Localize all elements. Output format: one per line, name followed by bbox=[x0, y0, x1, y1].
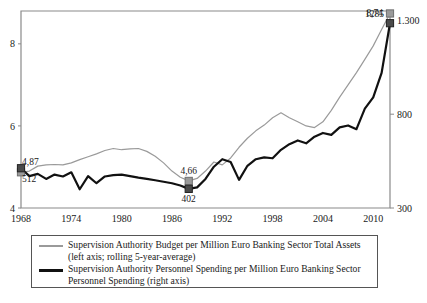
legend-entry-budget-text: Supervision Authority Budget per Million… bbox=[68, 239, 361, 262]
annotation-value-label: 1285 bbox=[365, 9, 384, 19]
x-axis-tick-label: 2004 bbox=[313, 213, 333, 224]
annotation-marker-dark bbox=[185, 185, 192, 192]
annotation-marker-dark bbox=[386, 20, 393, 27]
chart-legend: Supervision Authority Budget per Million… bbox=[31, 235, 378, 288]
series-line-budget bbox=[21, 13, 390, 180]
annotation-value-label: 402 bbox=[182, 194, 197, 204]
series-line-personnel bbox=[21, 23, 390, 189]
gray-line-swatch bbox=[39, 245, 63, 247]
annotation-marker-gray bbox=[185, 177, 192, 184]
legend-personnel-line2: Personnel Spending (right axis) bbox=[68, 275, 189, 286]
x-axis-tick-label: 1992 bbox=[212, 213, 232, 224]
x-axis-tick-label: 1998 bbox=[263, 213, 283, 224]
right-axis-tick-label: 1.300 bbox=[397, 15, 420, 26]
x-axis-tick-label: 1974 bbox=[61, 213, 81, 224]
legend-budget-line2: (left axis; rolling 5-year-average) bbox=[68, 251, 195, 262]
legend-personnel-line1: Supervision Authority Personnel Spending… bbox=[68, 263, 361, 274]
x-axis-tick-label: 1980 bbox=[112, 213, 132, 224]
x-axis-tick-label: 1986 bbox=[162, 213, 182, 224]
right-axis-tick-label: 300 bbox=[397, 203, 412, 214]
annotation-value-label: 512 bbox=[22, 174, 37, 184]
right-axis-tick-label: 800 bbox=[397, 109, 412, 120]
left-axis-tick-label: 8 bbox=[10, 38, 15, 49]
legend-entry-personnel: Supervision Authority Personnel Spending… bbox=[32, 262, 377, 286]
annotation-marker-gray bbox=[386, 10, 393, 17]
left-axis-tick-label: 6 bbox=[10, 121, 15, 132]
legend-entry-budget: Supervision Authority Budget per Million… bbox=[32, 236, 377, 262]
annotation-value-label: 4,66 bbox=[180, 166, 197, 176]
legend-budget-line1: Supervision Authority Budget per Million… bbox=[68, 239, 361, 250]
legend-entry-personnel-text: Supervision Authority Personnel Spending… bbox=[68, 263, 361, 286]
x-axis-tick-label: 1968 bbox=[11, 213, 31, 224]
dark-line-swatch bbox=[39, 269, 63, 272]
annotation-marker-dark bbox=[17, 165, 24, 172]
x-axis-tick-label: 2010 bbox=[363, 213, 383, 224]
